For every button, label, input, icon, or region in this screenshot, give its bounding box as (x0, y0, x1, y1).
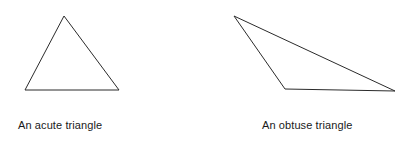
triangle-comparison-figure: An acute triangle An obtuse triangle (0, 0, 415, 146)
acute-triangle-shape (25, 16, 119, 90)
acute-triangle-caption: An acute triangle (18, 119, 102, 132)
obtuse-triangle-caption: An obtuse triangle (262, 119, 352, 132)
obtuse-triangle-shape (234, 16, 395, 91)
